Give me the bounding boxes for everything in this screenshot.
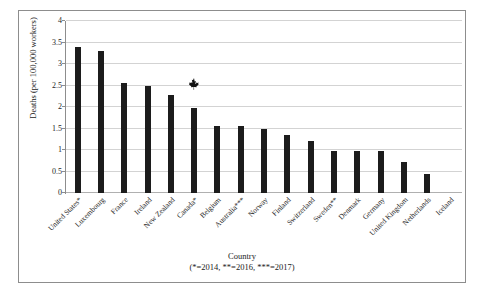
y-axis-tick-label: 0.5 [36,168,62,176]
bar-slot [66,21,89,193]
bar-slot [89,21,112,193]
y-axis-tick-label: 1 [36,146,62,154]
x-axis-label-slot: Norway [252,195,275,253]
bar-slot [182,21,205,193]
bar [401,162,407,193]
bar [238,126,244,194]
bar-slot [299,21,322,193]
y-axis-tick-label: 2 [36,103,62,111]
x-axis-label-slot: Sweden** [322,195,345,253]
bar [98,51,104,193]
bar [214,126,220,194]
x-axis-title: Country (*=2014, **=2016, ***=2017) [19,251,465,273]
bar-slot [276,21,299,193]
bar [261,129,267,193]
maple-leaf-icon [187,77,202,92]
y-axis-tick-label: 2.5 [36,82,62,90]
x-axis-label-slot: Iceland [439,195,462,253]
x-axis-label-slot: Switzerland [299,195,322,253]
bar [75,47,81,193]
y-axis-tick-label: 0 [36,189,62,197]
x-axis-tick-label: Iceland [435,196,456,217]
y-axis-tick-label: 4 [36,17,62,25]
bar-slot [229,21,252,193]
y-axis-tick-label: 1.5 [36,125,62,133]
bar [378,151,384,193]
x-axis-label-slot: Australia*** [229,195,252,253]
bar [284,135,290,193]
x-axis-title-main: Country [228,251,256,261]
bar [331,151,337,193]
x-axis-label-slot: New Zealand [159,195,182,253]
bar-slot [136,21,159,193]
bar-slot [439,21,462,193]
y-axis-title: Deaths (per 100,000 workers) [28,0,38,148]
x-axis-label-slot: Finland [276,195,299,253]
x-axis-labels: United States*LuxembourgFranceIrelandNew… [66,195,462,253]
x-axis-label-slot: Denmark [346,195,369,253]
x-axis-label-slot: Luxembourg [89,195,112,253]
bar-slot [392,21,415,193]
bar-slot [159,21,182,193]
bar [145,86,151,193]
bar-slot [415,21,438,193]
y-axis-tick-label: 3.5 [36,39,62,47]
plot-area [66,21,462,193]
bar [424,174,430,193]
bar-series [66,21,462,193]
bar-slot [369,21,392,193]
bar-slot [206,21,229,193]
bar-slot [346,21,369,193]
x-axis-tick-label: France [110,196,130,216]
bar-slot [322,21,345,193]
bar [121,83,127,194]
bar [354,151,360,193]
chart-figure: 43.532.521.510.50 Deaths (per 100,000 wo… [18,10,466,283]
bar [191,108,197,193]
x-axis-title-note: (*=2014, **=2016, ***=2017) [19,262,465,273]
bar [168,95,174,193]
bar-slot [252,21,275,193]
x-axis-label-slot: France [113,195,136,253]
bar [308,141,314,193]
bar-slot [113,21,136,193]
y-axis-tick-label: 3 [36,60,62,68]
x-axis-label-slot: Netherlands [415,195,438,253]
x-axis-label-slot: Canada* [182,195,205,253]
